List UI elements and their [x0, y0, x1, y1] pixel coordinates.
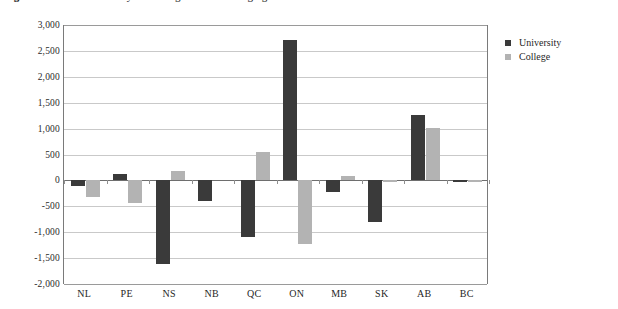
legend-label: College [519, 51, 550, 63]
bar-on-university[interactable] [283, 40, 297, 181]
y-axis: 3,0002,5002,0001,5001,0005000-500-1,000-… [0, 25, 60, 284]
bar-mb-college[interactable] [341, 176, 355, 181]
bar-group [192, 25, 235, 284]
bar-ab-college[interactable] [426, 128, 440, 181]
x-axis-label-on: ON [276, 287, 319, 301]
x-axis-label-ab: AB [403, 287, 446, 301]
bar-pe-university[interactable] [113, 174, 127, 181]
x-axis-label-nl: NL [63, 287, 106, 301]
bar-sk-university[interactable] [368, 180, 382, 221]
bar-group [234, 25, 277, 284]
bar-ns-college[interactable] [171, 171, 185, 180]
bar-group [362, 25, 405, 284]
y-axis-tick-label: 3,000 [2, 20, 60, 30]
x-axis-label-sk: SK [361, 287, 404, 301]
bar-group [64, 25, 107, 284]
gridline [64, 284, 487, 285]
bar-group [447, 25, 490, 284]
bar-on-college[interactable] [298, 180, 312, 244]
figure-title-strip: Figure 3.1.1University and college stude… [0, 0, 618, 9]
legend-item-college[interactable]: College [505, 51, 613, 63]
y-axis-tick-label: -500 [2, 201, 60, 211]
square-swatch-icon [505, 40, 511, 46]
bar-group [149, 25, 192, 284]
y-axis-tick-label: 1,000 [2, 124, 60, 134]
bar-nl-college[interactable] [86, 180, 100, 197]
bar-group [319, 25, 362, 284]
y-axis-tick-label: 2,000 [2, 72, 60, 82]
bar-qc-university[interactable] [241, 180, 255, 237]
bar-ab-university[interactable] [411, 115, 425, 181]
bar-bc-university[interactable] [453, 180, 467, 182]
y-axis-tick-label: 0 [2, 175, 60, 185]
bar-sk-college[interactable] [383, 180, 397, 182]
bar-qc-college[interactable] [256, 152, 270, 180]
x-axis-label-qc: QC [233, 287, 276, 301]
bar-group [107, 25, 150, 284]
chart-legend: UniversityCollege [505, 37, 613, 65]
figure-caption: University and college students changing… [60, 0, 315, 2]
axis-tick [489, 180, 490, 184]
bar-pe-college[interactable] [128, 180, 142, 203]
legend-item-university[interactable]: University [505, 37, 613, 49]
y-axis-tick-label: 500 [2, 150, 60, 160]
bar-bc-college[interactable] [468, 180, 482, 182]
figure-title: Figure 3.1.1University and college stude… [4, 0, 315, 2]
bar-group [404, 25, 447, 284]
y-axis-tick-label: 2,500 [2, 46, 60, 56]
legend-label: University [519, 37, 561, 49]
chart-figure: 3,0002,5002,0001,5001,0005000-500-1,000-… [0, 9, 618, 309]
plot-area [63, 25, 488, 284]
figure-number: Figure 3.1.1 [4, 0, 60, 2]
x-axis-label-pe: PE [106, 287, 149, 301]
bar-mb-university[interactable] [326, 180, 340, 192]
bar-nl-university[interactable] [71, 180, 85, 186]
y-axis-tick-label: -2,000 [2, 279, 60, 289]
square-swatch-icon [505, 54, 511, 60]
x-axis-label-ns: NS [148, 287, 191, 301]
x-axis-label-bc: BC [446, 287, 489, 301]
bar-series-container [64, 25, 487, 284]
y-axis-tick-label: -1,500 [2, 253, 60, 263]
x-axis-label-mb: MB [318, 287, 361, 301]
y-axis-tick-label: 1,500 [2, 98, 60, 108]
bar-ns-university[interactable] [156, 180, 170, 264]
bar-nb-university[interactable] [198, 180, 212, 200]
x-axis-label-nb: NB [191, 287, 234, 301]
y-axis-tick-label: -1,000 [2, 227, 60, 237]
x-axis: NLPENSNBQCONMBSKABBC [63, 287, 488, 305]
bar-group [277, 25, 320, 284]
